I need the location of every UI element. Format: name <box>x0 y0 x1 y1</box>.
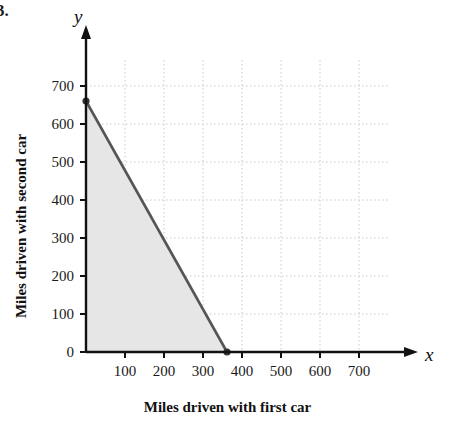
y-tick-label-700: 700 <box>52 78 75 95</box>
y-tick-label-600: 600 <box>52 116 75 133</box>
x-axis-letter: x <box>425 344 433 366</box>
x-axis-title: Miles driven with first car <box>0 399 455 416</box>
y-tick-label-400: 400 <box>52 192 75 209</box>
figure-root: 3. <box>0 0 455 434</box>
y-tick-label-300: 300 <box>52 230 75 247</box>
x-tick-label-400: 400 <box>231 363 254 380</box>
y-axis-letter: y <box>74 6 82 28</box>
plot-area <box>0 0 455 434</box>
y-tick-label-100: 100 <box>52 306 75 323</box>
x-tick-label-600: 600 <box>309 363 332 380</box>
x-tick-label-700: 700 <box>348 363 371 380</box>
y-tick-label-0: 0 <box>67 344 75 361</box>
y-tick-label-200: 200 <box>52 268 75 285</box>
x-tick-label-100: 100 <box>114 363 137 380</box>
x-tick-label-200: 200 <box>153 363 176 380</box>
x-tick-label-500: 500 <box>270 363 293 380</box>
y-axis-title: Miles driven with second car <box>13 134 30 318</box>
y-tick-label-500: 500 <box>52 154 75 171</box>
x-tick-label-300: 300 <box>192 363 215 380</box>
